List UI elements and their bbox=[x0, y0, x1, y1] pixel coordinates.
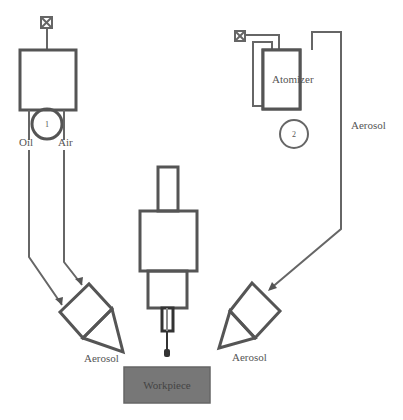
diagram-canvas: 1 Oil Air Aerosol Atomizer 2 Aerosol bbox=[0, 0, 403, 420]
pump-2-label: 2 bbox=[292, 130, 296, 139]
valve-1-icon bbox=[41, 17, 52, 50]
spindle-icon bbox=[140, 167, 197, 357]
aerosol-left-label: Aerosol bbox=[84, 352, 119, 364]
workpiece-label: Workpiece bbox=[143, 379, 190, 391]
aerosol-right-label: Aerosol bbox=[232, 351, 267, 363]
nozzle-left-icon bbox=[60, 284, 123, 352]
oil-label: Oil bbox=[19, 136, 33, 148]
nozzle-right-icon bbox=[219, 283, 280, 348]
oil-line bbox=[29, 150, 63, 305]
air-label: Air bbox=[58, 136, 73, 148]
pump-1-icon: 1 bbox=[32, 109, 62, 139]
workpiece: Workpiece bbox=[124, 367, 210, 403]
atomizer-label: Atomizer bbox=[272, 73, 314, 85]
aerosol-pipe-label: Aerosol bbox=[351, 119, 386, 131]
air-line bbox=[64, 150, 83, 285]
oil-reservoir bbox=[20, 50, 76, 110]
pump-2-icon: 2 bbox=[280, 120, 308, 148]
pump-1-label: 1 bbox=[45, 120, 49, 129]
